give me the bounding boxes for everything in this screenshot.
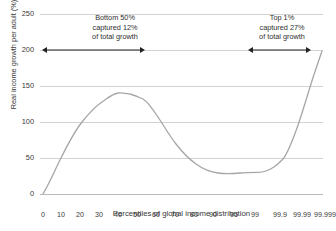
y-tick-label-50: 50 xyxy=(4,154,34,162)
top-1-annotation-line1: Top 1% xyxy=(236,13,328,23)
y-tick-label-150: 150 xyxy=(4,82,34,90)
y-tick-label-100: 100 xyxy=(4,118,34,126)
y-tick-label-200: 200 xyxy=(4,46,34,54)
bottom-50-annotation-line2: captured 12% xyxy=(63,23,167,33)
top-1-annotation-line3: of total growth xyxy=(236,32,328,42)
top-1-annotation: Top 1% captured 27% of total growth xyxy=(236,13,328,42)
y-tick-label-250: 250 xyxy=(4,10,34,18)
bottom-50-annotation: Bottom 50% captured 12% of total growth xyxy=(63,13,167,42)
y-tick-label-0: 0 xyxy=(4,190,34,198)
x-axis-title: Percentiles of global income distributio… xyxy=(40,209,323,218)
y-axis-title: Real income growth per adult (%) xyxy=(9,0,18,130)
top-1-annotation-line2: captured 27% xyxy=(236,23,328,33)
bottom-50-annotation-line3: of total growth xyxy=(63,32,167,42)
bottom-50-annotation-line1: Bottom 50% xyxy=(63,13,167,23)
